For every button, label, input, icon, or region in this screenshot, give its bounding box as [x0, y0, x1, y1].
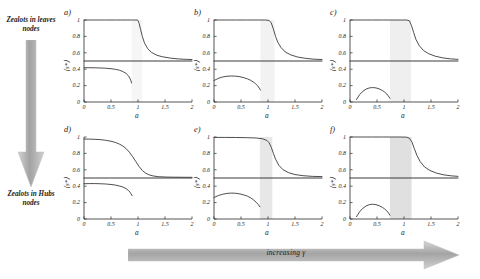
panel-e-yticklabel: 0.8: [192, 150, 210, 156]
panel-a-ylabel: ⟨s*⟩: [63, 60, 71, 72]
panel-e-yticklabel: 0: [192, 216, 210, 222]
panel-a-xticklabel: 1: [129, 104, 147, 110]
panel-c-xticklabel: 1.5: [422, 104, 440, 110]
panel-f-xticklabel: 0: [341, 221, 359, 227]
panel-a-xticklabel: 0: [75, 104, 93, 110]
panel-d-xticklabel: 0.5: [102, 221, 120, 227]
panel-a-yticklabel: 0.8: [62, 33, 80, 39]
panel-f-ylabel: ⟨s*⟩: [329, 177, 337, 189]
panel-c: c)00.511.5200.20.40.60.81a⟨s*⟩: [328, 8, 464, 124]
panel-c-yticklabel: 0: [328, 99, 346, 105]
panel-f-series-lower-branch: [356, 204, 389, 216]
panel-d-xticklabel: 1.5: [156, 221, 174, 227]
panel-e-yticklabel: 1: [192, 134, 210, 140]
panel-f-xticklabel: 1: [395, 221, 413, 227]
panel-e-xticklabel: 1: [259, 221, 277, 227]
bottom-rail-label: increasing γ: [226, 248, 346, 257]
panel-c-ylabel: ⟨s*⟩: [329, 60, 337, 72]
panel-c-yticklabel: 0.8: [328, 33, 346, 39]
panel-d-series-lower-branch: [84, 184, 132, 196]
panel-c-xticklabel: 1: [395, 104, 413, 110]
panel-d-yticklabel: 0.8: [62, 150, 80, 156]
left-rail-bottom-label: Zealots in Hubs nodes: [0, 190, 62, 207]
panel-e-xticklabel: 1.5: [286, 221, 304, 227]
panel-a-yticklabel: 1: [62, 17, 80, 23]
panel-a-yticklabel: 0: [62, 99, 80, 105]
panel-b-yticklabel: 0: [192, 99, 210, 105]
panel-f: f)00.511.5200.20.40.60.81a⟨s*⟩: [328, 125, 464, 241]
panel-f-yticklabel: 0.2: [328, 199, 346, 205]
panel-b-series-lower-branch: [214, 76, 260, 90]
panel-c-yticklabel: 0.6: [328, 50, 346, 56]
panel-e-yticklabel: 0.6: [192, 167, 210, 173]
panel-f-xticklabel: 2: [449, 221, 467, 227]
bottom-rail: increasing γ: [128, 240, 460, 272]
panel-a-xlabel: a: [135, 111, 139, 120]
panel-d-ylabel: ⟨s*⟩: [63, 177, 71, 189]
panel-c-series-lower-branch: [356, 88, 389, 100]
panel-d-xlabel: a: [135, 228, 139, 237]
panel-d-xticklabel: 1: [129, 221, 147, 227]
panel-b-xticklabel: 1.5: [286, 104, 304, 110]
panel-b: b)00.511.5200.20.40.60.81a⟨s*⟩: [192, 8, 328, 124]
panel-a: a)00.511.5200.20.40.60.81a⟨s*⟩: [62, 8, 198, 124]
panel-d-yticklabel: 0: [62, 216, 80, 222]
left-rail-top-label: Zealots in leaves nodes: [0, 16, 62, 33]
panel-d-xticklabel: 0: [75, 221, 93, 227]
panel-a-xticklabel: 1.5: [156, 104, 174, 110]
panel-b-xticklabel: 0: [205, 104, 223, 110]
panel-c-xticklabel: 0.5: [368, 104, 386, 110]
panel-f-xlabel: a: [401, 228, 405, 237]
panel-c-xlabel: a: [401, 111, 405, 120]
panel-f-yticklabel: 0.8: [328, 150, 346, 156]
panel-d-yticklabel: 1: [62, 134, 80, 140]
panel-d-yticklabel: 0.6: [62, 167, 80, 173]
panel-e: e)00.511.5200.20.40.60.81a⟨s*⟩: [192, 125, 328, 241]
panel-e-xticklabel: 0.5: [232, 221, 250, 227]
figure-root: Zealots in leaves nodes Zealots in Hubs …: [0, 0, 480, 279]
panel-a-xticklabel: 0.5: [102, 104, 120, 110]
panel-e-series-lower-branch: [214, 193, 260, 207]
panel-b-yticklabel: 0.2: [192, 82, 210, 88]
panel-d-yticklabel: 0.2: [62, 199, 80, 205]
panel-b-xticklabel: 0.5: [232, 104, 250, 110]
panel-a-yticklabel: 0.2: [62, 82, 80, 88]
panel-e-yticklabel: 0.2: [192, 199, 210, 205]
panel-a-yticklabel: 0.6: [62, 50, 80, 56]
panel-d: d)00.511.5200.20.40.60.81a⟨s*⟩: [62, 125, 198, 241]
panel-b-yticklabel: 0.8: [192, 33, 210, 39]
left-rail: Zealots in leaves nodes Zealots in Hubs …: [0, 8, 62, 238]
panel-e-ylabel: ⟨s*⟩: [193, 177, 201, 189]
panel-a-series-lower-branch: [84, 68, 132, 83]
panel-b-yticklabel: 0.6: [192, 50, 210, 56]
panel-c-yticklabel: 0.2: [328, 82, 346, 88]
panel-c-yticklabel: 1: [328, 17, 346, 23]
panel-f-xticklabel: 0.5: [368, 221, 386, 227]
down-arrow-icon: [17, 40, 45, 188]
panel-f-yticklabel: 0.6: [328, 167, 346, 173]
panel-b-yticklabel: 1: [192, 17, 210, 23]
panel-f-yticklabel: 0: [328, 216, 346, 222]
panel-b-ylabel: ⟨s*⟩: [193, 60, 201, 72]
panel-b-xticklabel: 1: [259, 104, 277, 110]
panel-b-xlabel: a: [265, 111, 269, 120]
panel-e-xlabel: a: [265, 228, 269, 237]
panel-c-xticklabel: 2: [449, 104, 467, 110]
panel-f-yticklabel: 1: [328, 134, 346, 140]
panel-e-xticklabel: 0: [205, 221, 223, 227]
panel-f-xticklabel: 1.5: [422, 221, 440, 227]
panel-c-xticklabel: 0: [341, 104, 359, 110]
panel-d-series-upper-consensus-branch: [84, 139, 192, 177]
